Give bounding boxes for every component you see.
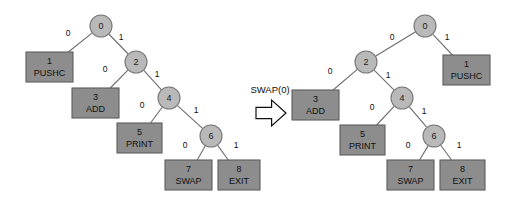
node-instruction-label: PUSHC — [451, 71, 483, 81]
tree-edge — [377, 106, 395, 125]
node-index-label: 6 — [431, 131, 436, 141]
node-index-label: 2 — [363, 57, 368, 67]
instruction-node[interactable]: 8EXIT — [440, 160, 485, 190]
edge-label: 1 — [422, 106, 427, 116]
tree-transformation-diagram: 01PUSHC23ADD45PRINT67SWAP8EXIT01PUSHC23A… — [0, 0, 508, 210]
node-index-label: 7 — [408, 164, 413, 174]
tree-edge — [110, 70, 128, 88]
decision-node[interactable]: 6 — [423, 125, 445, 147]
node-index-label: 4 — [166, 93, 171, 103]
tree-edge — [441, 145, 452, 160]
node-index-label: 8 — [236, 164, 241, 174]
node-instruction-label: ADD — [306, 106, 326, 116]
edge-label: 0 — [390, 32, 395, 42]
edge-label: 1 — [119, 32, 124, 42]
tree-edge — [197, 146, 205, 160]
node-instruction-label: PRINT — [126, 139, 154, 149]
node-instruction-label: EXIT — [452, 176, 473, 186]
decision-node[interactable]: 2 — [125, 51, 147, 73]
node-instruction-label: PUSHC — [34, 68, 66, 78]
right-arrow-outline-icon — [256, 100, 286, 126]
edge-label: 1 — [155, 69, 160, 79]
node-instruction-label: PRINT — [349, 141, 377, 151]
decision-node[interactable]: 6 — [200, 125, 222, 147]
edge-label: 0 — [103, 64, 108, 74]
instruction-node[interactable]: 5PRINT — [340, 125, 385, 155]
node-instruction-label: SWAP — [175, 176, 201, 186]
node-instruction-label: ADD — [86, 104, 106, 114]
instruction-node[interactable]: 5PRINT — [117, 123, 162, 153]
diagram-canvas: 01PUSHC23ADD45PRINT67SWAP8EXIT01PUSHC23A… — [0, 0, 508, 210]
edge-label: 0 — [66, 28, 71, 38]
node-index-label: 0 — [98, 21, 103, 31]
edge-label: 1 — [386, 70, 391, 80]
node-index-label: 4 — [399, 93, 404, 103]
tree-edge — [151, 107, 163, 123]
tree-edge — [433, 34, 452, 55]
node-index-label: 1 — [464, 59, 469, 69]
instruction-node[interactable]: 8EXIT — [218, 160, 260, 190]
tree-edge — [374, 70, 394, 90]
node-index-label: 0 — [422, 21, 427, 31]
node-index-label: 5 — [360, 129, 365, 139]
instruction-node[interactable]: 3ADD — [292, 90, 339, 120]
decision-node[interactable]: 0 — [90, 15, 112, 37]
nodes-layer: 01PUSHC23ADD45PRINT67SWAP8EXIT01PUSHC23A… — [26, 15, 490, 190]
decision-node[interactable]: 0 — [414, 15, 436, 37]
node-instruction-label: SWAP — [397, 176, 423, 186]
decision-node[interactable]: 2 — [355, 51, 377, 73]
edge-label: 1 — [457, 140, 462, 150]
instruction-node[interactable]: 7SWAP — [387, 160, 434, 190]
operation-label: SWAP(0) — [250, 84, 289, 95]
instruction-node[interactable]: 7SWAP — [165, 160, 212, 190]
node-instruction-label: EXIT — [229, 176, 250, 186]
node-index-label: 7 — [186, 164, 191, 174]
tree-edge — [68, 33, 92, 52]
node-index-label: 2 — [133, 57, 138, 67]
edge-label: 0 — [328, 66, 333, 76]
tree-edge — [218, 145, 229, 160]
decision-node[interactable]: 4 — [158, 87, 180, 109]
node-index-label: 8 — [460, 164, 465, 174]
instruction-node[interactable]: 3ADD — [72, 88, 119, 118]
edge-label: 0 — [370, 102, 375, 112]
tree-edge — [333, 69, 357, 90]
edge-label: 0 — [183, 140, 188, 150]
tree-edge — [420, 146, 429, 160]
edge-label: 1 — [234, 140, 239, 150]
tree-edge — [376, 32, 415, 56]
edge-label: 0 — [140, 100, 145, 110]
node-index-label: 5 — [137, 127, 142, 137]
node-index-label: 6 — [208, 131, 213, 141]
edge-label: 0 — [406, 140, 411, 150]
node-index-label: 3 — [93, 92, 98, 102]
edge-label: 1 — [194, 105, 199, 115]
operation-marker: SWAP(0) — [250, 84, 289, 126]
instruction-node[interactable]: 1PUSHC — [443, 55, 490, 85]
edge-label: 1 — [445, 32, 450, 42]
decision-node[interactable]: 4 — [391, 87, 413, 109]
node-index-label: 3 — [313, 94, 318, 104]
tree-edge — [178, 106, 203, 129]
instruction-node[interactable]: 1PUSHC — [26, 52, 73, 82]
node-index-label: 1 — [47, 56, 52, 66]
